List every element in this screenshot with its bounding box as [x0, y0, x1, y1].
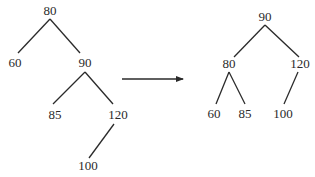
before-edge [53, 72, 85, 104]
diagram-svg: 80609085120100 90801206085100 [0, 0, 315, 177]
before-edge [85, 72, 113, 104]
before-node-100: 100 [78, 158, 98, 173]
before-edge [18, 19, 50, 53]
after-node-60: 60 [208, 106, 221, 121]
after-edge [234, 25, 265, 57]
after-edge [265, 25, 299, 57]
before-node-85: 85 [49, 107, 62, 122]
before-edge [50, 19, 80, 53]
before-node-60: 60 [9, 55, 22, 70]
after-edge [216, 72, 229, 104]
after-edge [284, 72, 298, 104]
before-node-90: 90 [79, 55, 92, 70]
before-edge [89, 124, 114, 158]
after-edge [229, 72, 245, 104]
after-tree-nodes: 90801206085100 [208, 9, 310, 121]
before-node-120: 120 [108, 107, 128, 122]
after-node-80: 80 [223, 56, 236, 71]
after-node-85: 85 [239, 106, 252, 121]
before-tree-edges [18, 19, 114, 158]
after-node-100: 100 [273, 106, 293, 121]
after-node-90: 90 [259, 9, 272, 24]
tree-rotation-diagram: 80609085120100 90801206085100 [0, 0, 315, 177]
after-node-120: 120 [290, 56, 310, 71]
before-node-80: 80 [44, 3, 57, 18]
